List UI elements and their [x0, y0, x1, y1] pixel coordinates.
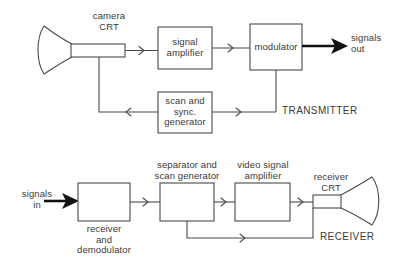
- receiver-demodulator-label: receiver and demodulator: [66, 224, 142, 256]
- signal-amplifier-label: signal amplifier: [160, 37, 210, 58]
- transmitter-section-label: TRANSMITTER: [282, 106, 392, 117]
- block-diagram: camera CRT signal amplifier modulator si…: [0, 0, 411, 272]
- wire-scangen-to-crt-feedback: [99, 57, 158, 112]
- video-signal-amplifier-label: video signal amplifier: [228, 160, 298, 181]
- receiver-section-label: RECEIVER: [320, 232, 410, 243]
- receiver-crt-neck: [313, 195, 342, 208]
- signals-in-label: signals in: [8, 189, 66, 210]
- separator-scan-generator-label: separator and scan generator: [146, 160, 228, 181]
- receiver-demodulator-block: [78, 183, 130, 221]
- camera-crt-neck: [71, 44, 125, 57]
- scan-sync-generator-label: scan and sync. generator: [159, 96, 211, 128]
- signals-out-label: signals out: [351, 33, 407, 54]
- modulator-label: modulator: [250, 42, 302, 53]
- separator-scan-generator-block: [160, 183, 214, 221]
- camera-crt-label: camera CRT: [80, 11, 138, 32]
- video-signal-amplifier-block: [235, 183, 290, 221]
- camera-crt-shape: [38, 26, 72, 74]
- receiver-crt-label: receiver CRT: [305, 172, 357, 193]
